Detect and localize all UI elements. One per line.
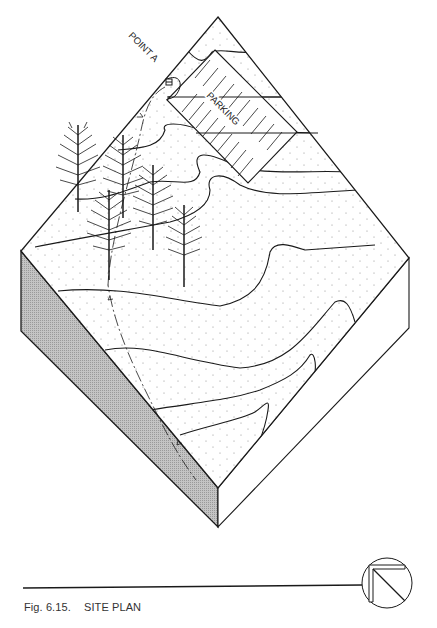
point-a-label: POINT A — [127, 30, 162, 65]
figure-caption: Fig. 6.15. SITE PLAN — [24, 601, 141, 613]
north-arrow-icon — [362, 558, 412, 608]
caption-rule — [23, 585, 362, 588]
site-plan-diagram: PARKING POINT A — [0, 0, 437, 628]
figure-number: Fig. 6.15. — [24, 601, 71, 613]
figure-title: SITE PLAN — [84, 601, 141, 613]
